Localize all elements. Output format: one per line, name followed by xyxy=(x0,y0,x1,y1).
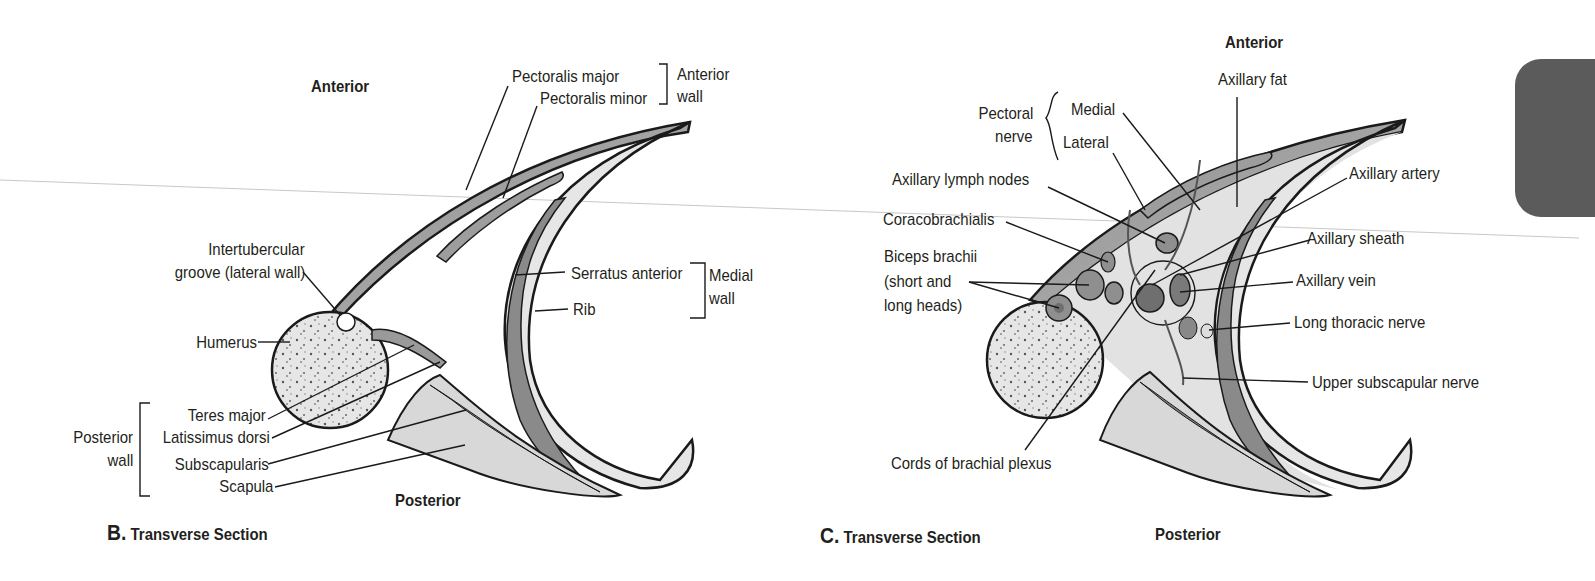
label-axillary-sheath: Axillary sheath xyxy=(1307,229,1404,248)
label-medial-wall-line2: wall xyxy=(709,289,735,308)
label-long-thoracic-nerve: Long thoracic nerve xyxy=(1294,313,1425,332)
label-anterior-wall-line1: Anterior xyxy=(677,65,729,84)
label-axillary-artery: Axillary artery xyxy=(1349,164,1440,183)
label-pectoralis-minor: Pectoralis minor xyxy=(540,89,647,108)
label-biceps-line2: (short and xyxy=(884,272,951,291)
label-axillary-fat: Axillary fat xyxy=(1218,70,1287,89)
label-posterior-wall-line2: wall xyxy=(107,451,133,470)
label-coracobrachialis: Coracobrachialis xyxy=(883,210,994,229)
orientation-anterior: Anterior xyxy=(311,77,369,96)
caption-letter: C. xyxy=(820,523,839,548)
label-biceps-line3: long heads) xyxy=(884,296,962,315)
label-serratus-anterior: Serratus anterior xyxy=(571,264,682,283)
label-medial: Medial xyxy=(1071,100,1115,119)
label-subscapularis: Subscapularis xyxy=(175,455,269,474)
label-pectoral-nerve-line2: nerve xyxy=(996,127,1033,146)
label-biceps-line1: Biceps brachii xyxy=(884,247,977,266)
orientation-anterior: Anterior xyxy=(1225,33,1283,52)
caption-c: C. Transverse Section xyxy=(820,523,981,549)
label-axillary-lymph-nodes: Axillary lymph nodes xyxy=(892,170,1029,189)
caption-b: B. Transverse Section xyxy=(107,520,268,546)
label-humerus: Humerus xyxy=(196,333,257,352)
label-anterior-wall-line2: wall xyxy=(677,87,703,106)
label-cords-brachial-plexus: Cords of brachial plexus xyxy=(891,454,1051,473)
label-posterior-wall-line1: Posterior xyxy=(73,428,133,447)
label-rib: Rib xyxy=(573,300,595,319)
panel-c-graphic xyxy=(987,120,1411,496)
label-lateral: Lateral xyxy=(1063,133,1109,152)
label-pectoralis-major: Pectoralis major xyxy=(512,67,619,86)
orientation-posterior: Posterior xyxy=(1155,525,1221,544)
label-teres-major: Teres major xyxy=(188,406,266,425)
chapter-tab xyxy=(1515,59,1595,217)
label-intertubercular-line1: Intertubercular xyxy=(209,240,305,259)
label-scapula: Scapula xyxy=(219,477,273,496)
label-intertubercular-line2: groove (lateral wall) xyxy=(174,263,305,282)
label-medial-wall-line1: Medial xyxy=(709,266,753,285)
caption-text: Transverse Section xyxy=(844,528,981,547)
label-pectoral-nerve-line1: Pectoral xyxy=(978,104,1033,123)
label-latissimus-dorsi: Latissimus dorsi xyxy=(163,428,270,447)
orientation-posterior: Posterior xyxy=(395,491,461,510)
label-axillary-vein: Axillary vein xyxy=(1296,271,1376,290)
label-upper-subscapular-nerve: Upper subscapular nerve xyxy=(1312,373,1479,392)
caption-text: Transverse Section xyxy=(131,525,268,544)
caption-letter: B. xyxy=(107,520,126,545)
